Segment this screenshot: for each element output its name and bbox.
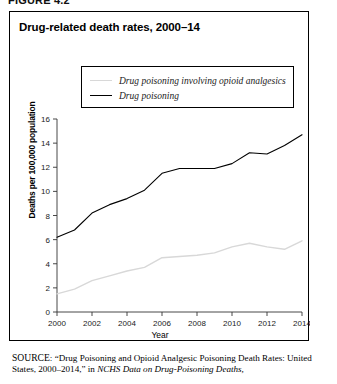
svg-text:4: 4 xyxy=(46,260,51,269)
x-axis-group: 20002002200420062008201020122014 xyxy=(48,312,310,328)
svg-text:16: 16 xyxy=(41,115,50,124)
svg-text:2006: 2006 xyxy=(153,319,171,328)
figure-box: Drug-related death rates, 2000–14 Drug p… xyxy=(9,11,309,341)
source-line2-italic: NCHS Data on Drug-Poisoning Deaths, xyxy=(97,364,244,374)
source-note: SOURCE: “Drug Poisoning and Opioid Analg… xyxy=(12,352,318,376)
svg-text:6: 6 xyxy=(46,236,51,245)
svg-text:2008: 2008 xyxy=(188,319,206,328)
svg-text:0: 0 xyxy=(46,308,51,317)
y-axis-group: 0246810121416 xyxy=(41,115,57,317)
svg-text:14: 14 xyxy=(41,139,50,148)
figure-number-label: FIGURE 4.2 xyxy=(8,0,70,6)
svg-text:2012: 2012 xyxy=(258,319,276,328)
source-line1: : “Drug Poisoning and Opioid Analgesic P… xyxy=(50,353,285,363)
plot-area: Deaths per 100,000 population Year 02468… xyxy=(10,12,310,342)
svg-text:2000: 2000 xyxy=(48,319,66,328)
line-chart-svg: 0246810121416 20002002200420062008201020… xyxy=(10,12,310,342)
svg-text:2004: 2004 xyxy=(118,319,136,328)
source-prefix: SOURCE xyxy=(12,352,50,363)
svg-text:12: 12 xyxy=(41,163,50,172)
svg-text:2: 2 xyxy=(46,284,51,293)
svg-text:2010: 2010 xyxy=(223,319,241,328)
svg-text:2014: 2014 xyxy=(293,319,310,328)
svg-text:10: 10 xyxy=(41,187,50,196)
series-group xyxy=(57,135,302,294)
svg-text:2002: 2002 xyxy=(83,319,101,328)
svg-text:8: 8 xyxy=(46,212,51,221)
